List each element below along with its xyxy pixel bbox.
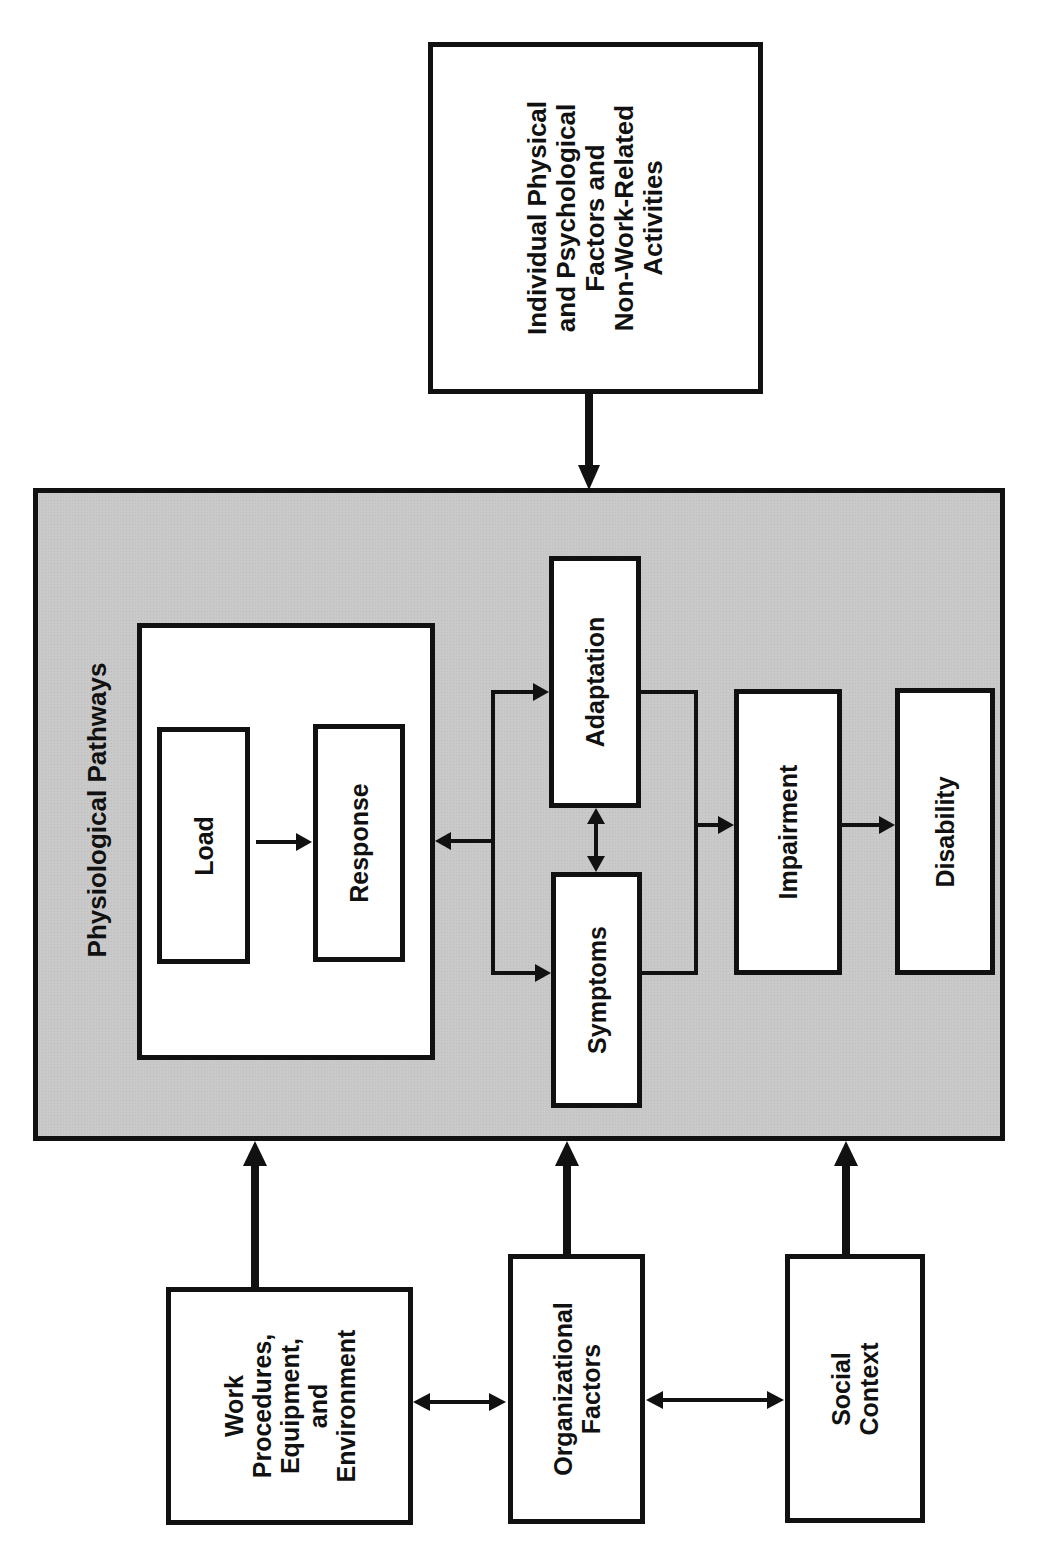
work-procedures-line-4: and <box>304 1330 332 1483</box>
work-procedures-line-5: Environment <box>332 1330 360 1483</box>
load-label: Load <box>190 816 218 876</box>
impairment-box: Impairment <box>734 689 842 975</box>
adaptation-box: Adaptation <box>549 556 641 808</box>
arrow-work-organizational-bidirectional <box>413 1393 506 1411</box>
work-procedures-label: Work Procedures, Equipment, and Environm… <box>220 1330 360 1483</box>
disability-box: Disability <box>895 688 995 975</box>
individual-factors-line-2: and Psychological <box>552 101 581 335</box>
arrow-individual-to-pathways <box>578 394 600 490</box>
social-context-line-2: Context <box>855 1342 883 1435</box>
arrow-social-to-pathways <box>834 1141 858 1254</box>
organizational-factors-box: Organizational Factors <box>508 1254 645 1524</box>
individual-factors-line-4: Non-Work-Related <box>610 101 639 335</box>
response-box: Response <box>313 724 405 962</box>
social-context-label: Social Context <box>827 1342 883 1435</box>
social-context-line-1: Social <box>827 1342 855 1435</box>
individual-factors-line-3: Factors and <box>581 101 610 335</box>
individual-factors-line-1: Individual Physical <box>523 101 552 335</box>
physiological-pathways-title: Physiological Pathways <box>83 663 112 958</box>
individual-factors-label: Individual Physical and Psychological Fa… <box>523 101 669 335</box>
load-box: Load <box>157 727 250 964</box>
individual-factors-box: Individual Physical and Psychological Fa… <box>428 42 763 394</box>
disability-label: Disability <box>931 776 959 887</box>
symptoms-label: Symptoms <box>583 926 611 1054</box>
arrow-organizational-social-bidirectional <box>646 1391 784 1409</box>
work-procedures-line-3: Equipment, <box>276 1330 304 1483</box>
organizational-factors-label: Organizational Factors <box>549 1302 605 1476</box>
organizational-factors-line-2: Factors <box>577 1302 605 1476</box>
work-procedures-box: Work Procedures, Equipment, and Environm… <box>166 1287 413 1525</box>
impairment-label: Impairment <box>774 765 802 900</box>
individual-factors-line-5: Activities <box>639 101 668 335</box>
response-label: Response <box>345 783 373 902</box>
work-procedures-line-2: Procedures, <box>248 1330 276 1483</box>
arrow-work-to-pathways <box>243 1141 267 1287</box>
social-context-box: Social Context <box>785 1254 925 1523</box>
adaptation-label: Adaptation <box>581 617 609 748</box>
arrow-organizational-to-pathways <box>555 1141 579 1254</box>
work-procedures-line-1: Work <box>220 1330 248 1483</box>
symptoms-box: Symptoms <box>551 872 642 1108</box>
organizational-factors-line-1: Organizational <box>549 1302 577 1476</box>
physiological-pathways-title-wrap: Physiological Pathways <box>70 620 126 1000</box>
